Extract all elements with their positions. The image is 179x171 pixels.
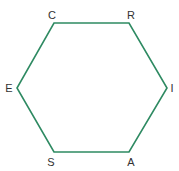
vertex-label-r: R xyxy=(127,9,135,21)
hexagon-outline xyxy=(17,23,167,152)
hexagon-diagram: C R I A S E xyxy=(0,0,179,171)
vertex-label-s: S xyxy=(47,156,54,168)
vertex-label-i: I xyxy=(170,82,173,94)
vertex-label-a: A xyxy=(127,156,135,168)
vertex-label-c: C xyxy=(48,9,56,21)
vertex-label-e: E xyxy=(5,82,12,94)
